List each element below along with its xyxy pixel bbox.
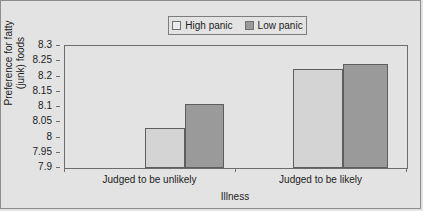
y-axis-tick-label: 7.95 <box>33 147 52 157</box>
legend-item-low-panic: Low panic <box>245 21 303 31</box>
x-axis-category-label: Judged to be unlikely <box>64 174 235 185</box>
x-axis-category-label: Judged to be likely <box>235 174 406 185</box>
y-axis-tick-mark <box>56 76 60 77</box>
y-axis-tick-mark <box>56 137 60 138</box>
bar-group <box>65 46 407 168</box>
bar-high-panic <box>293 69 343 168</box>
y-axis-tick-mark <box>56 121 60 122</box>
y-axis-tick-mark <box>56 106 60 107</box>
y-axis-tick-mark <box>56 60 60 61</box>
chart-figure: High panic Low panic Preference for fatt… <box>0 0 421 209</box>
y-axis-tick-label: 8.25 <box>33 55 52 65</box>
x-axis-tick-mark <box>406 168 407 172</box>
y-axis-tick-label: 8.15 <box>33 86 52 96</box>
legend-swatch-low-panic <box>245 21 254 30</box>
y-axis-tick-mark <box>56 167 60 168</box>
legend-label-low-panic: Low panic <box>258 21 303 31</box>
y-axis-tick-label: 8.1 <box>38 101 52 111</box>
y-axis-tick-mark <box>56 152 60 153</box>
bar-low-panic <box>343 64 388 168</box>
y-axis-tick-mark <box>56 91 60 92</box>
legend-swatch-high-panic <box>172 21 181 30</box>
legend-item-high-panic: High panic <box>172 21 232 31</box>
x-axis-tick-mark <box>235 168 236 172</box>
y-axis-tick-label: 8.05 <box>33 116 52 126</box>
bar-high-panic <box>145 128 185 168</box>
y-axis-tick-label: 7.9 <box>38 162 52 172</box>
legend-label-high-panic: High panic <box>185 21 232 31</box>
y-axis-tick-label: 8.2 <box>38 71 52 81</box>
bar-low-panic <box>185 104 224 168</box>
x-axis-tick-mark <box>64 168 65 172</box>
x-axis-title: Illness <box>64 191 406 202</box>
plot-area <box>64 45 408 169</box>
y-axis-tick-labels: 8.38.258.28.158.18.0587.957.9 <box>1 39 60 173</box>
y-axis-tick-mark <box>56 45 60 46</box>
chart-legend: High panic Low panic <box>168 16 307 35</box>
y-axis-tick-label: 8 <box>46 132 52 142</box>
y-axis-tick-label: 8.3 <box>38 40 52 50</box>
